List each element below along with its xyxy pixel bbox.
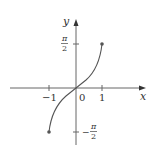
svg-text:−: − bbox=[82, 127, 90, 137]
y-axis-arrow-icon bbox=[74, 19, 79, 26]
x-axis-label: x bbox=[140, 90, 147, 103]
svg-text:π: π bbox=[61, 34, 68, 43]
x-tick-label-0: 0 bbox=[79, 92, 85, 103]
svg-text:π: π bbox=[90, 122, 97, 131]
x-tick-label-neg1: −1 bbox=[42, 92, 57, 103]
svg-text:2: 2 bbox=[62, 44, 67, 53]
svg-text:2: 2 bbox=[91, 132, 96, 141]
y-tick-label-neg-pi-half: − π 2 bbox=[82, 122, 97, 141]
x-tick-label-1: 1 bbox=[99, 92, 105, 103]
y-tick-label-pi-half: π 2 bbox=[61, 34, 68, 53]
endpoint-top bbox=[100, 42, 104, 46]
endpoint-bottom bbox=[47, 130, 51, 134]
arcsin-chart: y x −1 0 1 π 2 − π 2 bbox=[0, 0, 152, 151]
y-axis-label: y bbox=[62, 15, 70, 28]
